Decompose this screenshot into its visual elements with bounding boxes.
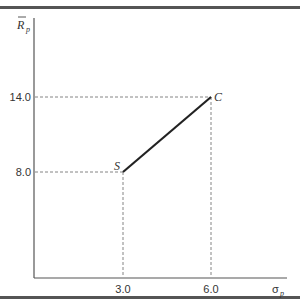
y-axis-label: R xyxy=(16,18,25,32)
line-s-c xyxy=(123,97,211,172)
x-axis-label: σ xyxy=(272,283,279,295)
point-label-s: S xyxy=(114,159,120,173)
top-border xyxy=(0,6,300,9)
point-label-c: C xyxy=(214,90,223,104)
chart-canvas: 14.0 8.0 3.0 6.0 S C R p σ p xyxy=(0,0,300,307)
bottom-border xyxy=(0,296,300,299)
x-axis-label-sub: p xyxy=(279,289,284,298)
tick-x-3: 3.0 xyxy=(115,283,130,295)
tick-y-14: 14.0 xyxy=(10,91,31,103)
y-axis-label-sub: p xyxy=(25,25,30,34)
tick-y-8: 8.0 xyxy=(16,166,31,178)
tick-x-6: 6.0 xyxy=(203,283,218,295)
